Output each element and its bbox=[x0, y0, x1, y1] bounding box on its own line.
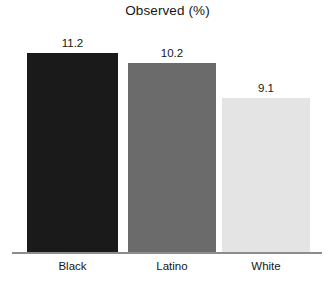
bar-chart: Observed (%) 11.2 Black 10.2 Latino 9.1 … bbox=[0, 0, 335, 289]
bar-value-label: 9.1 bbox=[222, 82, 310, 95]
category-label-latino: Latino bbox=[128, 259, 216, 273]
bar-white bbox=[222, 98, 310, 253]
category-label-white: White bbox=[222, 259, 310, 273]
bar-value-label: 11.2 bbox=[27, 37, 118, 50]
category-label-black: Black bbox=[27, 259, 118, 273]
bar-latino bbox=[128, 63, 216, 253]
bar-value-label: 10.2 bbox=[128, 47, 216, 60]
plot-area: 11.2 Black 10.2 Latino 9.1 White bbox=[0, 0, 335, 289]
x-axis-line bbox=[12, 252, 322, 254]
bar-black bbox=[27, 53, 118, 253]
